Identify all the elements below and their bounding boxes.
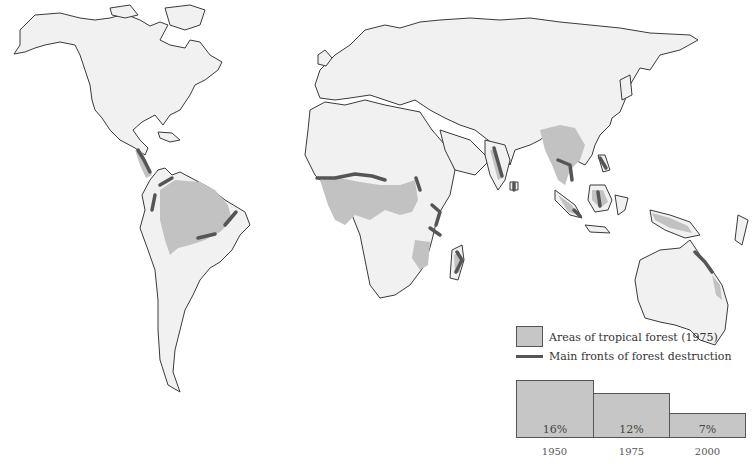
sulawesi: [615, 195, 628, 215]
japan: [620, 75, 632, 100]
legend-forest-swatch: [516, 326, 543, 347]
bar-1950: 16%: [516, 380, 594, 438]
category-1950: 1950: [516, 446, 593, 457]
legend-forest-label: Areas of tropical forest (1975): [549, 331, 718, 344]
legend-destruction-line: [516, 355, 543, 358]
caribbean: [158, 132, 180, 142]
legend-destruction-label: Main fronts of forest destruction: [549, 350, 732, 363]
bar-value-2000: 7%: [670, 423, 745, 436]
front-borneo: [598, 192, 600, 206]
java: [585, 225, 610, 233]
new-zealand: [735, 215, 748, 245]
chart-baseline: [516, 437, 746, 438]
category-2000: 2000: [669, 446, 746, 457]
category-1975: 1975: [593, 446, 670, 457]
north-america: [14, 13, 222, 155]
bar-value-1975: 12%: [594, 423, 669, 436]
bar-1975: 12%: [593, 393, 670, 438]
bar-value-1950: 16%: [517, 423, 593, 436]
bar-2000: 7%: [669, 413, 746, 438]
arctic-islands: [110, 5, 138, 18]
forest-southeast-asia: [540, 125, 585, 185]
greenland: [165, 5, 205, 30]
australia: [635, 240, 728, 345]
